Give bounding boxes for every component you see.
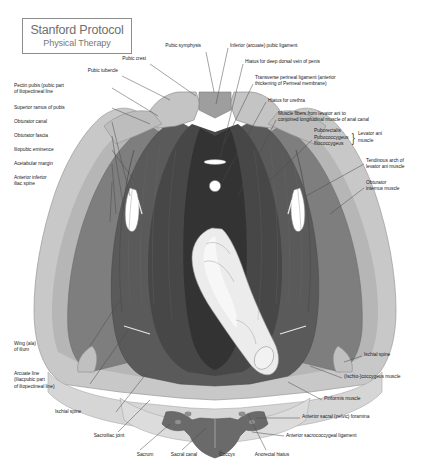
- hiatus-for-urethra: [209, 180, 220, 191]
- label-iliopubic-eminence: Iliopubic eminence: [14, 147, 108, 153]
- label-superior-ramus-of-pubis: Superior ramus of pubis: [14, 105, 108, 111]
- label-obturator-canal: Obturator canal: [14, 119, 108, 125]
- label-anorectal-hiatus: Anorectal hiatus: [243, 452, 301, 458]
- label-acetabular-margin: Acetabular margin: [14, 161, 108, 167]
- levator-ani-components: PuborectalisPubococcygeusIliococcygeus: [314, 128, 349, 148]
- label-iliococcygeus: Iliococcygeus: [314, 141, 349, 148]
- label-transverse-perineal-ligament-anterior-thickening-of-: Transverse perineal ligament (anterior t…: [255, 75, 405, 88]
- label-sacrum: Sacrum: [124, 452, 166, 458]
- hiatus-deep-dorsal-vein: [204, 160, 226, 165]
- title-card-line1: Stanford Protocol: [30, 24, 123, 37]
- label-anterior-inferior-iliac-spine: Anterior inferior iliac spine: [14, 175, 108, 188]
- label-sacral-canal: Sacral canal: [161, 452, 207, 458]
- label-obturator-fascia: Obturator fascia: [14, 133, 108, 139]
- sacral-foramen-left-1: [185, 412, 192, 417]
- label-inferior-arcuate-pubic-ligament: Inferior (arcuate) pubic ligament: [230, 43, 360, 49]
- sacral-foramen-right-2: [249, 420, 255, 424]
- levator-ani-bracket-group: PuborectalisPubococcygeusIliococcygeus}L…: [314, 128, 382, 148]
- label-ischial-spine: Ischial spine: [364, 352, 426, 358]
- label-pubic-crest: Pubic crest: [88, 56, 146, 62]
- label-anterior-sacrococcygeal-ligament: Anterior sacrococcygeal ligament: [286, 433, 428, 439]
- label-levator-ani-muscle: Levator ani muscle: [358, 131, 382, 144]
- title-card-line2: Physical Therapy: [43, 39, 110, 48]
- label-obturator-internus-muscle: Obturator internus muscle: [366, 180, 430, 193]
- label-pubic-symphysis: Pubic symphysis: [139, 43, 201, 49]
- label-tendinous-arch-of-levator-ani-muscle: Tendinous arch of levator ani muscle: [366, 158, 430, 171]
- label-ischial-spine: Ischial spine: [55, 409, 113, 415]
- label-hiatus-for-urethra: Hiatus for urethra: [268, 98, 398, 104]
- label-coccyx: Coccyx: [208, 452, 246, 458]
- sacral-foramen-right-1: [239, 412, 246, 417]
- sacral-foramen-left-2: [175, 420, 181, 424]
- label-hiatus-for-deep-dorsal-vein-of-penis: Hiatus for deep dorsal vein of penis: [245, 59, 385, 65]
- label-pubic-tubercle: Pubic tubercle: [58, 68, 118, 74]
- label-wing-ala-of-ilium: Wing (ala) of ilium: [14, 341, 86, 354]
- label-sacroiliac-joint: Sacroiliac joint: [81, 433, 137, 439]
- label-arcuate-line-iliacpubic-part-of-iliopectineal-line: Arcuate line (iliacpubic part of iliopec…: [14, 371, 86, 390]
- pubic-symphysis: [199, 92, 231, 118]
- curly-brace-icon: }: [351, 131, 354, 144]
- label-pectin-pubis-pubic-part-of-iliopectineal-line: Pectin pubis (pubic part of iliopectinea…: [14, 83, 108, 96]
- label-piriformis-muscle: Piriformis muscle: [324, 396, 408, 402]
- label-muscle-fibers-from-levator-ani-to-conjoined-longitud: Muscle fibers from levator ani to conjoi…: [278, 111, 428, 124]
- label-ischio-coccygeus-muscle: (Ischio-)coccygeus muscle: [344, 374, 428, 380]
- label-anterior-sacral-pelvic-foramina: Anterior sacral (pelvic) foramina: [302, 414, 428, 420]
- anatomy-illustration-page: Stanford Protocol Physical Therapy Pecti…: [0, 0, 430, 472]
- title-card: Stanford Protocol Physical Therapy: [22, 18, 132, 54]
